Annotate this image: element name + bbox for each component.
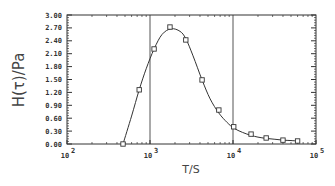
x-tick-label: 10 <box>61 152 69 160</box>
x-axis-title: T/S <box>181 163 199 176</box>
x-tick-exponent: 5 <box>320 147 324 155</box>
y-tick-label: 0.60 <box>45 115 62 123</box>
data-point-marker <box>281 138 285 142</box>
y-tick-label: 0.30 <box>45 128 62 136</box>
y-tick-label: 2.40 <box>45 37 62 45</box>
chart: 0.000.300.600.901.201.501.802.102.402.70… <box>0 0 335 186</box>
y-tick-label: 2.70 <box>45 24 62 32</box>
y-tick-label: 1.80 <box>45 63 62 71</box>
data-point-marker <box>137 88 141 92</box>
x-tick-exponent: 4 <box>237 147 241 155</box>
fit-curve <box>123 29 298 144</box>
data-point-marker <box>217 108 221 112</box>
data-markers <box>121 25 300 146</box>
y-tick-label: 1.20 <box>45 89 62 97</box>
data-point-marker <box>295 139 299 143</box>
data-point-marker <box>264 136 268 140</box>
y-tick-label: 2.10 <box>45 50 62 58</box>
x-tick-label: 10 <box>144 152 152 160</box>
data-point-marker <box>184 38 188 42</box>
data-point-marker <box>249 132 253 136</box>
x-tick-exponent: 2 <box>71 147 75 155</box>
y-axis-title: H(τ)/Pa <box>10 53 28 108</box>
x-tick-label: 10 <box>227 152 235 160</box>
x-tick-label: 10 <box>310 152 318 160</box>
y-tick-label: 0.00 <box>45 141 62 149</box>
data-point-marker <box>152 47 156 51</box>
data-point-marker <box>168 25 172 29</box>
plot-frame <box>67 15 316 144</box>
y-tick-label: 1.50 <box>45 76 62 84</box>
x-tick-exponent: 3 <box>154 147 158 155</box>
y-tick-label: 0.90 <box>45 102 62 110</box>
y-tick-label: 3.00 <box>45 12 62 20</box>
data-point-marker <box>200 78 204 82</box>
data-point-marker <box>121 142 125 146</box>
data-point-marker <box>232 125 236 129</box>
